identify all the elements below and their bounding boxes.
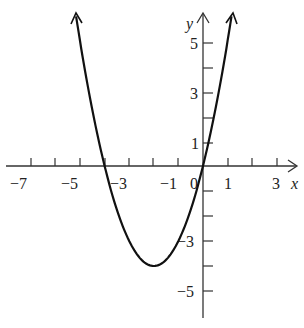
parabola-curve	[76, 16, 231, 266]
x-tick-label: −1	[160, 175, 177, 192]
y-tick-label: 5	[190, 35, 198, 52]
x-ticks	[31, 158, 277, 166]
y-ticks	[203, 43, 213, 291]
x-tick-label: −5	[61, 175, 78, 192]
y-tick-label: 1	[191, 135, 199, 152]
x-tick-label: 1	[224, 175, 232, 192]
x-tick-label: 3	[272, 175, 280, 192]
x-tick-label: −7	[10, 175, 27, 192]
y-tick-label: 3	[190, 85, 198, 102]
x-axis-label: x	[290, 175, 298, 192]
y-axis-label: y	[184, 15, 194, 33]
x-tick-label: −3	[110, 175, 127, 192]
y-tick-label: −3	[177, 233, 194, 250]
parabola-graph: −7 −5 −3 −1 0 1 3 x y 5 3 1 −3 −5	[0, 0, 304, 328]
y-tick-label: −5	[177, 283, 194, 300]
